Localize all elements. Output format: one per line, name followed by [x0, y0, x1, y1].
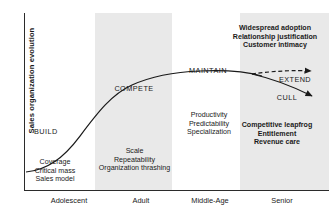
x-axis-tick-labels: Adolescent Adult Middle-Age Senior [24, 196, 329, 212]
x-tick-middle-age: Middle-Age [174, 196, 246, 205]
senior-bottom-line-1: Competitive leapfrog [226, 121, 328, 130]
adolescent-detail-line-3: Sales model [24, 175, 86, 184]
senior-bottom-line-2: Entitlement [226, 130, 328, 139]
senior-top-line-2: Relationship justification [219, 33, 331, 42]
adolescent-detail-line-2: Critical mass [24, 167, 86, 176]
stage-label-maintain: MAINTAIN [178, 67, 238, 76]
senior-top-line-3: Customer intimacy [219, 41, 331, 50]
adult-detail-line-1: Scale [87, 147, 182, 156]
adult-detail-line-2: Repeatability [87, 156, 182, 165]
branch-label-extend: EXTEND [272, 76, 318, 85]
adolescent-detail-line-1: Coverage [24, 158, 86, 167]
stage-details-adult: Scale Repeatability Organization thrashi… [87, 147, 182, 173]
x-tick-adolescent: Adolescent [34, 196, 104, 205]
stage-details-senior-top: Widespread adoption Relationship justifi… [219, 24, 331, 50]
senior-bottom-line-3: Revenue care [226, 138, 328, 147]
x-tick-senior: Senior [249, 196, 315, 205]
stage-label-compete: COMPETE [101, 85, 167, 94]
x-tick-adult: Adult [108, 196, 174, 205]
middle-age-detail-line-1: Productivity [167, 111, 251, 120]
sales-organization-evolution-chart: Sales organization evolution BUILD Cover… [0, 0, 331, 220]
senior-top-line-1: Widespread adoption [219, 24, 331, 33]
extend-branch-arrow [252, 71, 311, 74]
stage-details-adolescent: Coverage Critical mass Sales model [24, 158, 86, 184]
branch-label-cull: CULL [268, 94, 306, 103]
adult-detail-line-3: Organization thrashing [87, 164, 182, 173]
stage-label-build: BUILD [34, 128, 58, 137]
stage-details-senior-bottom: Competitive leapfrog Entitlement Revenue… [226, 121, 328, 147]
